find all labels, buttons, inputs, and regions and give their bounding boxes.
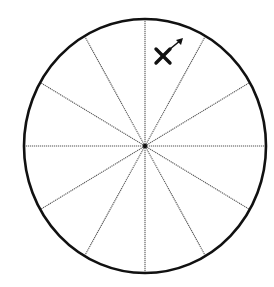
- sector-circle-diagram: [0, 0, 274, 287]
- spoke-line: [85, 146, 145, 255]
- spoke-line: [145, 83, 249, 146]
- cross-arrow-marker-icon: [156, 38, 183, 63]
- spoke-line: [41, 146, 145, 209]
- spoke-line: [85, 37, 145, 146]
- spoke-line: [145, 146, 249, 209]
- spoke-line: [41, 83, 145, 146]
- center-point: [143, 144, 147, 148]
- spoke-line: [145, 37, 205, 146]
- spoke-line: [145, 146, 205, 255]
